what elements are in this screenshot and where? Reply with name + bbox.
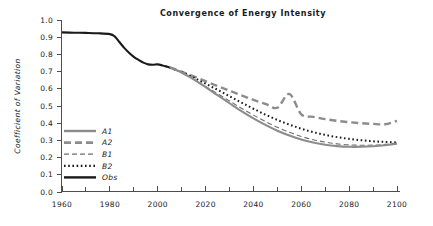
y-tick-label: 0.8 — [40, 50, 53, 59]
legend-label-b1: B1 — [102, 150, 113, 159]
y-tick-label: 0.7 — [40, 67, 53, 76]
y-tick-label: 0.4 — [40, 119, 53, 128]
legend-label-obs: Obs — [102, 173, 117, 182]
x-tick-label: 2080 — [339, 200, 359, 209]
y-tick-label: 1.0 — [40, 16, 53, 25]
legend-label-a1: A1 — [101, 127, 113, 136]
x-tick-label: 2000 — [148, 200, 168, 209]
y-tick-label: 0.3 — [40, 136, 53, 145]
y-axis-title: Coefficient of Variation — [13, 58, 22, 153]
y-tick-label: 0.9 — [40, 33, 53, 42]
chart-figure: Convergence of Energy Intensity Coeffici… — [0, 0, 433, 226]
x-tick-label: 2060 — [291, 200, 311, 209]
y-tick-label: 0.1 — [40, 170, 53, 179]
x-tick-label: 2040 — [243, 200, 263, 209]
series-line-b2 — [170, 68, 397, 143]
x-tick-label: 2020 — [195, 200, 215, 209]
y-tick-label: 0.2 — [40, 153, 53, 162]
x-tick-label: 1960 — [52, 200, 72, 209]
chart-legend: A1A2B1B2Obs — [64, 127, 117, 182]
chart-title: Convergence of Energy Intensity — [160, 9, 326, 18]
legend-label-a2: A2 — [101, 138, 113, 147]
x-tick-label: 1980 — [100, 200, 120, 209]
x-tick-label: 2100 — [387, 200, 407, 209]
y-tick-label: 0.6 — [40, 84, 53, 93]
y-tick-label: 0.5 — [40, 102, 53, 111]
legend-label-b2: B2 — [102, 162, 113, 171]
series-line-obs — [62, 32, 170, 67]
series-line-a2 — [170, 67, 397, 124]
x-axis-ticks: 19601980200020202040206020802100 — [52, 186, 407, 209]
y-axis-ticks: 0.00.10.20.30.40.50.60.70.80.91.0 — [40, 16, 62, 197]
y-tick-label: 0.0 — [40, 188, 53, 197]
convergence-line-chart: Convergence of Energy Intensity Coeffici… — [0, 0, 433, 226]
